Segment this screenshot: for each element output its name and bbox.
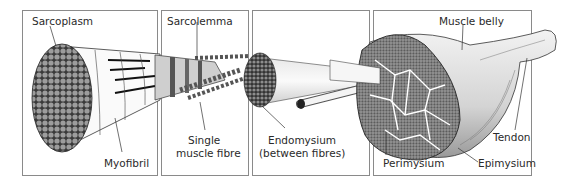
label-single-fibre-1: Single	[188, 134, 220, 146]
muscle-structure-diagram: Sarcoplasm Myofibril Sarcolemma Single m…	[0, 0, 575, 188]
label-sarcoplasm: Sarcoplasm	[32, 15, 93, 27]
label-single-fibre-2: muscle fibre	[176, 147, 241, 159]
label-muscle-belly: Muscle belly	[439, 15, 504, 27]
label-endomysium-note: (between fibres)	[259, 147, 345, 159]
myofibril-bundle-illustration	[32, 44, 160, 152]
label-tendon: Tendon	[493, 131, 531, 143]
single-fibre-illustration	[155, 22, 250, 130]
label-endomysium: Endomysium	[268, 134, 336, 146]
label-perimysium: Perimysium	[383, 157, 444, 169]
label-epimysium: Epimysium	[478, 157, 536, 169]
label-sarcolemma: Sarcolemma	[167, 15, 233, 27]
label-myofibril: Myofibril	[104, 157, 149, 169]
